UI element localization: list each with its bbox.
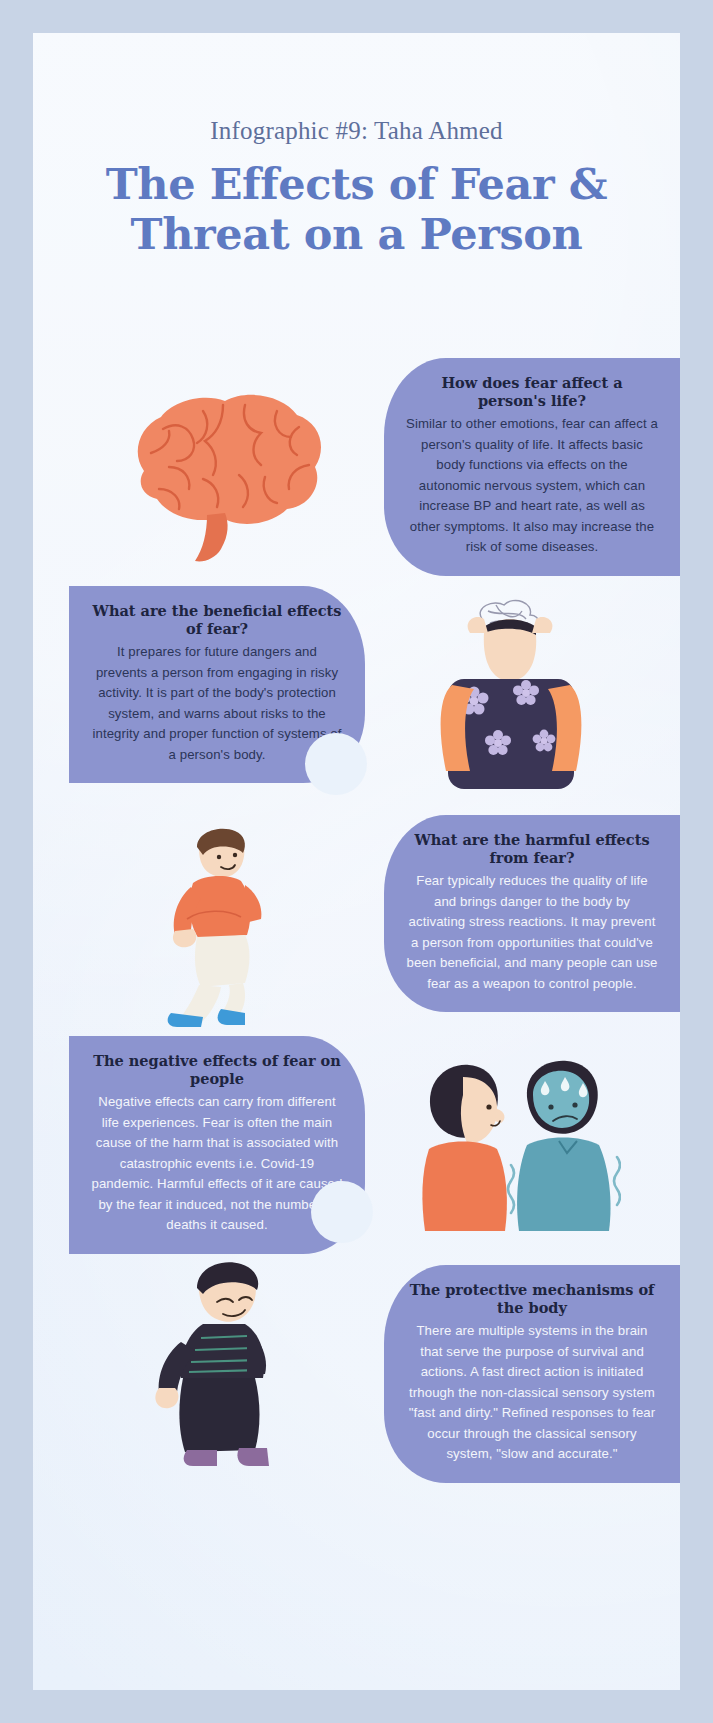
info-block-title: The protective mechanisms of the body [406, 1281, 658, 1317]
page-title-line-2: Threat on a Person [33, 209, 680, 259]
info-block-protective-mechanisms: The protective mechanisms of the body Th… [384, 1265, 680, 1483]
info-block-negative-effects: The negative effects of fear on people N… [69, 1036, 365, 1254]
info-block-title: How does fear affect a person's life? [406, 374, 658, 410]
info-block-body: Fear typically reduces the quality of li… [406, 871, 658, 994]
info-block-title: The negative effects of fear on people [91, 1052, 343, 1088]
info-block-body: Similar to other emotions, fear can affe… [406, 414, 658, 558]
info-block-how-fear-affects-life: How does fear affect a person's life? Si… [384, 358, 680, 576]
byline: Infographic #9: Taha Ahmed [33, 117, 680, 145]
info-block-body: Negative effects can carry from differen… [91, 1092, 343, 1236]
infographic-page: Infographic #9: Taha Ahmed The Effects o… [33, 33, 680, 1690]
info-block-title: What are the harmful effects from fear? [406, 831, 658, 867]
stressed-woman-illustration [418, 593, 603, 798]
info-block-harmful-effects: What are the harmful effects from fear? … [384, 815, 680, 1012]
brain-illustration [111, 383, 341, 573]
header: Infographic #9: Taha Ahmed The Effects o… [33, 33, 680, 259]
info-block-body: It prepares for future dangers and preve… [91, 642, 343, 765]
info-block-beneficial-effects: What are the beneficial effects of fear?… [69, 586, 365, 783]
info-block-body: There are multiple systems in the brain … [406, 1321, 658, 1465]
crying-man-illustration [143, 1258, 318, 1473]
anxious-man-illustration [141, 823, 301, 1033]
page-title: The Effects of Fear & Threat on a Person [33, 159, 680, 259]
page-title-line-1: The Effects of Fear & [33, 159, 680, 209]
two-people-illustration [401, 1053, 621, 1238]
info-block-title: What are the beneficial effects of fear? [91, 602, 343, 638]
